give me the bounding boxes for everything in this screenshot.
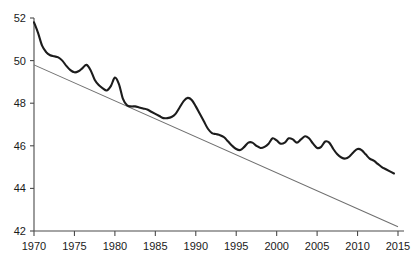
x-tick-label: 1990	[184, 240, 208, 252]
x-tick-label: 2005	[305, 240, 329, 252]
y-tick-label: 42	[14, 225, 26, 237]
x-tick-label: 1985	[143, 240, 167, 252]
y-tick-label: 46	[14, 140, 26, 152]
x-tick-label: 1980	[103, 240, 127, 252]
x-tick-label: 2000	[264, 240, 288, 252]
y-tick-label: 44	[14, 182, 26, 194]
y-axis-ticks: 424446485052	[14, 12, 34, 237]
y-tick-label: 48	[14, 97, 26, 109]
y-tick-label: 50	[14, 55, 26, 67]
y-tick-label: 52	[14, 12, 26, 24]
x-tick-label: 1995	[224, 240, 248, 252]
x-axis-ticks: 1970197519801985199019952000200520102015	[22, 231, 410, 252]
observed-line-series	[34, 22, 394, 173]
line-chart: 424446485052 197019751980198519901995200…	[0, 0, 420, 265]
x-tick-label: 2015	[386, 240, 410, 252]
trend-line-series	[34, 65, 398, 227]
x-tick-label: 1975	[62, 240, 86, 252]
x-tick-label: 2010	[345, 240, 369, 252]
chart-container: 424446485052 197019751980198519901995200…	[0, 0, 420, 265]
x-tick-label: 1970	[22, 240, 46, 252]
